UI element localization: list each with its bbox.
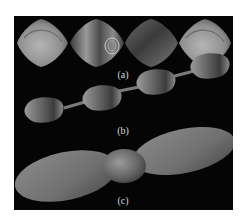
subfigure-label-a: (a) <box>103 70 143 80</box>
figure-panel: (a) (b) (c) <box>14 16 233 210</box>
subfigure-label-c: (c) <box>103 196 143 206</box>
figure-artwork <box>14 16 233 210</box>
subfigure-b-shapes <box>24 53 229 122</box>
subfigure-label-b: (b) <box>103 126 143 136</box>
